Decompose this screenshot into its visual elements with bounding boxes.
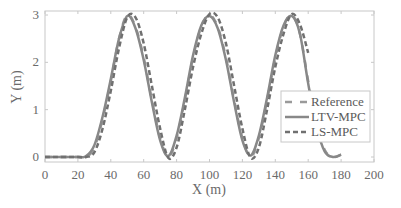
x-tick-label: 80: [170, 167, 183, 182]
legend-label-ls-mpc: LS-MPC: [311, 124, 358, 139]
x-tick-label: 100: [200, 167, 220, 182]
x-tick-label: 140: [266, 167, 286, 182]
y-tick-label: 3: [33, 7, 40, 22]
x-tick-label: 120: [233, 167, 253, 182]
x-axis-label: X (m): [192, 182, 226, 198]
legend: Reference LTV-MPC LS-MPC: [281, 91, 370, 142]
x-tick-labels: 020406080100120140160180200: [42, 167, 384, 182]
legend-label-reference: Reference: [311, 94, 364, 109]
x-tick-label: 20: [71, 167, 84, 182]
x-tick-label: 200: [364, 167, 384, 182]
y-tick-label: 2: [33, 54, 40, 69]
x-tick-label: 60: [137, 167, 150, 182]
legend-label-ltv-mpc: LTV-MPC: [311, 109, 366, 124]
x-tick-label: 160: [298, 167, 318, 182]
x-tick-label: 0: [42, 167, 49, 182]
y-tick-label: 0: [33, 149, 40, 164]
x-tick-label: 40: [104, 167, 117, 182]
trajectory-chart: 020406080100120140160180200 0123 X (m) Y…: [0, 0, 401, 208]
y-tick-label: 1: [33, 102, 40, 117]
x-tick-label: 180: [331, 167, 351, 182]
y-tick-labels: 0123: [33, 7, 40, 164]
y-axis-label: Y (m): [9, 70, 25, 104]
